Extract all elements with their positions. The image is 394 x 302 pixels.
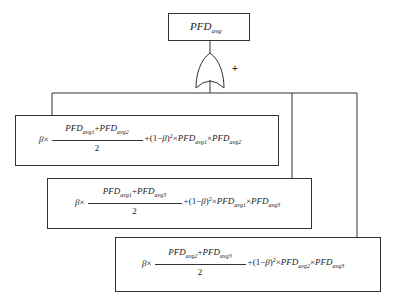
fraction: PFDavg1+PFDavg2 2 [52, 123, 143, 154]
fraction: PFDavg2+PFDavg3 2 [155, 247, 246, 278]
event-formula-3: β× PFDavg2+PFDavg3 2 +(1−β)2×PFDavg2×PFD… [142, 247, 344, 278]
top-event-box: PFDavg [168, 13, 250, 41]
event-formula-1: β× PFDavg1+PFDavg2 2 +(1−β)2×PFDavg1×PFD… [39, 123, 241, 154]
event-box-1: β× PFDavg1+PFDavg2 2 +(1−β)2×PFDavg1×PFD… [15, 115, 279, 166]
fault-tree-diagram: + PFDavg β× PFDavg1+PFDavg2 2 +(1−β)2×PF… [0, 0, 394, 302]
event-box-2: β× PFDavg1+PFDavg3 2 +(1−β)2×PFDavg1×PFD… [47, 178, 312, 229]
fraction: PFDavg1+PFDavg3 2 [88, 186, 182, 217]
event-formula-2: β× PFDavg1+PFDavg3 2 +(1−β)2×PFDavg1×PFD… [75, 186, 280, 217]
top-event-label: PFDavg [190, 20, 222, 35]
or-gate-symbol: + [232, 63, 238, 74]
event-box-3: β× PFDavg2+PFDavg3 2 +(1−β)2×PFDavg2×PFD… [115, 237, 381, 292]
